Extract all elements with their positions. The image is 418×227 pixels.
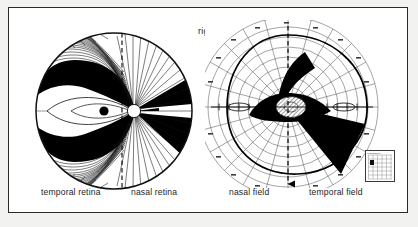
retina-optic-disc <box>127 104 140 117</box>
legend-swatch <box>370 160 375 165</box>
legend-caption: Target Diameter <box>367 152 380 154</box>
caption-nasal-field: nasal field <box>229 187 269 197</box>
figure-frame: right eye <box>8 7 408 213</box>
retina-fovea <box>99 106 108 115</box>
caption-temporal-retina: temporal retina <box>41 187 101 197</box>
field-panel: Target Diameter Luminance nasal field te… <box>205 8 408 213</box>
caption-temporal-field: temporal field <box>309 187 363 197</box>
retina-diagram <box>9 8 209 213</box>
field-diagram <box>205 8 408 213</box>
legend-grid <box>366 151 394 181</box>
caption-nasal-retina: nasal retina <box>131 187 177 197</box>
retina-contents <box>9 8 209 213</box>
field-contents <box>198 8 408 213</box>
retina-panel: temporal retina nasal retina <box>9 8 209 213</box>
field-legend: Target Diameter Luminance <box>365 150 395 182</box>
